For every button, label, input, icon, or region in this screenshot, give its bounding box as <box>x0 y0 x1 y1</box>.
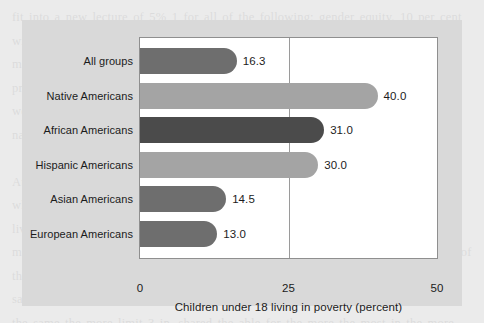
x-tick-label: 50 <box>431 282 444 294</box>
category-label: Native Americans <box>47 90 133 102</box>
bar <box>140 83 378 109</box>
bar <box>140 186 226 212</box>
category-label: European Americans <box>30 228 133 240</box>
category-label: All groups <box>84 55 133 67</box>
category-label: Asian Americans <box>50 193 133 205</box>
x-axis-title: Children under 18 living in poverty (per… <box>139 301 438 313</box>
bar-row: African Americans31.0 <box>140 117 437 143</box>
bar-value-label: 31.0 <box>330 124 353 136</box>
figure-panel: All groups16.3Native Americans40.0Africa… <box>22 20 462 306</box>
bar <box>140 117 324 143</box>
bar-rows: All groups16.3Native Americans40.0Africa… <box>140 38 437 258</box>
bar-row: European Americans13.0 <box>140 221 437 247</box>
x-tick-label: 25 <box>282 282 295 294</box>
bar-value-label: 13.0 <box>223 228 246 240</box>
category-label: Hispanic Americans <box>36 159 134 171</box>
bar <box>140 152 318 178</box>
bar-value-label: 16.3 <box>243 55 266 67</box>
category-label: African Americans <box>44 124 134 136</box>
bar-row: Hispanic Americans30.0 <box>140 152 437 178</box>
bar <box>140 221 217 247</box>
x-tick-label: 0 <box>137 282 143 294</box>
bar-value-label: 14.5 <box>232 193 255 205</box>
plot-area: All groups16.3Native Americans40.0Africa… <box>139 37 438 259</box>
bar-row: Asian Americans14.5 <box>140 186 437 212</box>
bar <box>140 48 237 74</box>
bar-row: Native Americans40.0 <box>140 83 437 109</box>
bar-row: All groups16.3 <box>140 48 437 74</box>
bar-value-label: 40.0 <box>384 90 407 102</box>
bar-value-label: 30.0 <box>324 159 347 171</box>
